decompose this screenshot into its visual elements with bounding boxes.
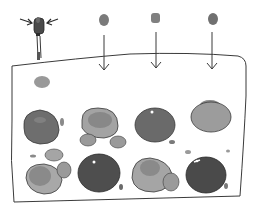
blob-r1c4 <box>191 100 231 132</box>
blob-r2c3 <box>132 158 179 192</box>
dropper-tray-illustration <box>0 0 253 214</box>
droplet <box>45 149 63 161</box>
droplet <box>30 155 36 158</box>
droplet <box>226 150 230 153</box>
droplet <box>185 150 191 154</box>
blob-r1c3 <box>135 108 175 144</box>
dropper-icon <box>34 17 44 60</box>
falling-drop-1 <box>99 14 109 70</box>
blob-r2c2 <box>78 154 123 192</box>
blob-r2c4 <box>186 157 228 193</box>
falling-drop-2 <box>151 13 161 68</box>
blob-r2c1 <box>26 162 71 194</box>
falling-drop-3 <box>207 13 218 69</box>
droplet <box>34 76 50 88</box>
blob-r1c1 <box>24 110 64 144</box>
blob-r1c2 <box>80 108 126 148</box>
